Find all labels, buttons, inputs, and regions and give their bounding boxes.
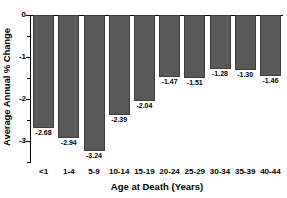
- bar-value-label: -1.46: [256, 77, 284, 85]
- bar: [109, 15, 130, 115]
- bar: [33, 15, 54, 128]
- x-category-label: 40-44: [254, 167, 286, 176]
- bar-value-label: -1.30: [231, 71, 259, 79]
- bar: [184, 15, 205, 78]
- y-tick-label: -1: [12, 53, 26, 61]
- bar-value-label: -3.24: [80, 152, 108, 160]
- bar-chart: Average Annual % Change 0-1-2-3 -2.68-2.…: [0, 0, 287, 198]
- y-tick-label: -3: [12, 137, 26, 145]
- bar-value-label: -1.28: [206, 70, 234, 78]
- bar-value-label: -2.68: [30, 129, 58, 137]
- bar: [58, 15, 79, 138]
- bar: [260, 15, 281, 76]
- x-axis-title: Age at Death (Years): [31, 181, 283, 192]
- y-tick-label: -2: [12, 95, 26, 103]
- y-tick-minor: [27, 162, 31, 163]
- bar: [134, 15, 155, 101]
- bar-value-label: -2.04: [130, 102, 158, 110]
- bar-value-label: -1.51: [181, 79, 209, 87]
- bar: [84, 15, 105, 151]
- bar-value-label: -2.94: [55, 139, 83, 147]
- bar-value-label: -1.47: [156, 78, 184, 86]
- bar: [235, 15, 256, 70]
- y-tick-label: 0: [12, 11, 26, 19]
- bar-value-label: -2.39: [105, 116, 133, 124]
- bar: [159, 15, 180, 77]
- bar: [210, 15, 231, 69]
